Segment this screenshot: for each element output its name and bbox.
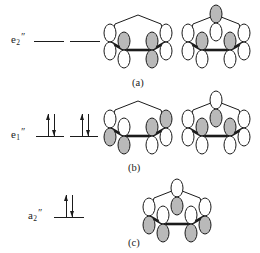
caption-c: (c) [128, 237, 140, 248]
level-label-a2: a2″ [28, 207, 41, 223]
energy-level-line-e2-a [34, 41, 64, 42]
energy-level-line-e1-b [70, 136, 98, 137]
caption-b: (b) [128, 162, 140, 173]
orbital-picture-e2-right [176, 2, 256, 74]
orbital-picture-a2 [137, 176, 217, 248]
mo-diagram-figure: e2″ e1″ a2″ [0, 0, 260, 253]
energy-level-line-e2-b [70, 41, 100, 42]
level-label-e2: e2″ [11, 31, 24, 47]
energy-level-line-e1-a [36, 136, 64, 137]
orbital-picture-e1-left [98, 88, 178, 160]
orbital-picture-e2-left [98, 2, 178, 74]
energy-level-line-a2 [54, 217, 84, 218]
electron-arrow-e1-a-down [51, 114, 58, 136]
electron-arrow-e1-b-down [85, 114, 92, 136]
orbital-picture-e1-right [176, 88, 256, 160]
level-label-e2-prime: ″ [20, 31, 24, 42]
level-label-e1-prime: ″ [20, 126, 24, 137]
level-label-e1: e1″ [11, 126, 24, 142]
level-label-a2-prime: ″ [37, 207, 41, 218]
electron-arrow-a2-down [69, 195, 76, 217]
caption-a: (a) [132, 77, 144, 88]
